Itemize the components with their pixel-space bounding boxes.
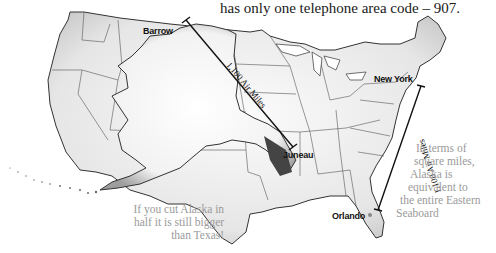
- city-label-juneau: Juneau: [283, 150, 313, 160]
- city-label-new-york: New York: [374, 74, 413, 84]
- city-label-barrow: Barrow: [143, 26, 173, 36]
- note-line: equivalent to: [404, 181, 480, 194]
- orlando-marker: [368, 213, 372, 217]
- note-line: Alaska is: [404, 168, 480, 181]
- note-line: In terms of: [404, 142, 480, 155]
- note-alaska-vs-seaboard: In terms of square miles, Alaska is equi…: [404, 142, 480, 220]
- note-line: the entire Eastern: [400, 194, 480, 207]
- note-alaska-vs-texas: If you cut Alaska in half it is still bi…: [110, 203, 224, 242]
- headline: has only one telephone area code – 907.: [220, 0, 460, 17]
- note-line: than Texas!: [110, 229, 224, 242]
- note-line: If you cut Alaska in: [110, 203, 224, 216]
- note-line: Seaboard: [396, 207, 480, 220]
- note-line: square miles,: [404, 155, 480, 168]
- note-line: half it is still bigger: [110, 216, 224, 229]
- city-label-orlando: Orlando: [332, 211, 365, 221]
